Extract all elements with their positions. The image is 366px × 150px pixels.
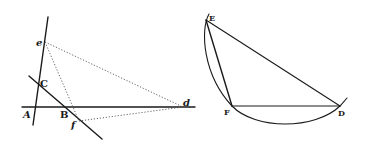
figure-right: E F D bbox=[205, 13, 347, 124]
label-a: A bbox=[22, 109, 31, 120]
label-d-upper: D bbox=[338, 108, 345, 118]
line-e-d bbox=[206, 20, 340, 106]
label-d: d bbox=[183, 97, 190, 108]
label-f-upper: F bbox=[224, 107, 230, 117]
line-e-f bbox=[206, 20, 232, 106]
figure-left: e C A B f d bbox=[22, 17, 195, 139]
dotted-line-f-d bbox=[79, 107, 183, 121]
label-f: f bbox=[70, 119, 77, 130]
label-e: e bbox=[36, 37, 42, 48]
dotted-line-e-d bbox=[45, 42, 183, 107]
line-through-e-c-a bbox=[33, 17, 48, 125]
label-e-upper: E bbox=[209, 13, 215, 23]
geometry-diagram: e C A B f d E F D bbox=[0, 0, 366, 150]
label-c: C bbox=[40, 78, 48, 89]
label-b: B bbox=[60, 109, 68, 120]
